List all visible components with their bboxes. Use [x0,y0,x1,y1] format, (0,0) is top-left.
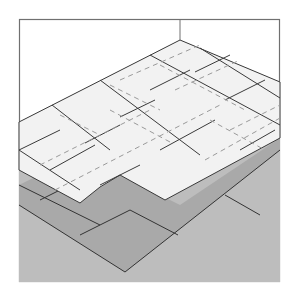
tile-floor-illustration [0,0,296,300]
